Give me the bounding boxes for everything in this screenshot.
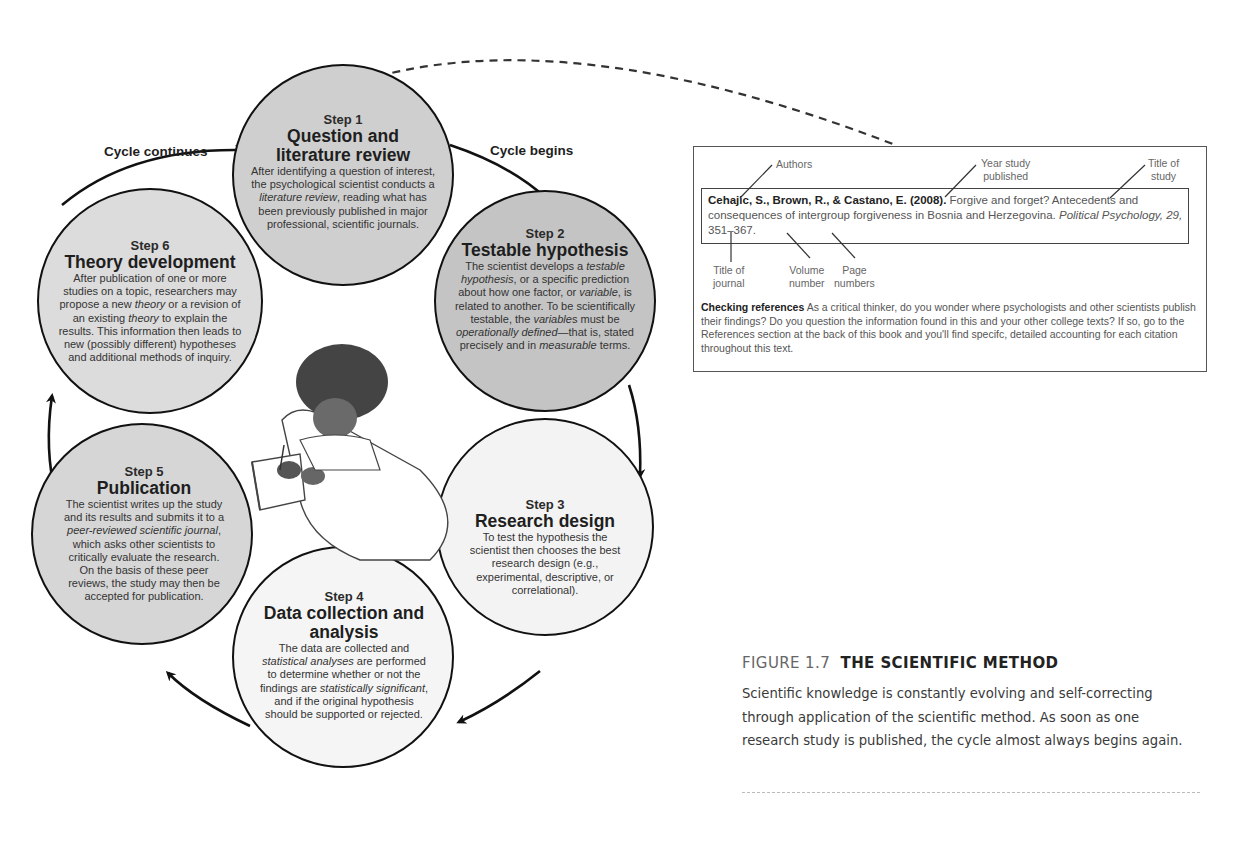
citation-volume: 29, <box>1166 209 1182 221</box>
figure-title: FIGURE 1.7 THE SCIENTIFIC METHOD <box>742 654 1058 672</box>
annotation-pages: Page numbers <box>834 264 875 289</box>
annotation-title-of-journal: Title of journal <box>713 264 745 289</box>
figure-number: FIGURE 1.7 <box>742 654 830 672</box>
citation-authors-year: Cehajic, S., Brown, R., & Castano, E. (2… <box>708 194 946 206</box>
annotation-year: Year study published <box>981 157 1030 182</box>
checking-references-heading: Checking references <box>701 301 804 313</box>
checking-references-note: Checking references As a critical thinke… <box>701 301 1206 355</box>
citation-journal: Political Psychology, <box>1059 209 1163 221</box>
figure-name: THE SCIENTIFIC METHOD <box>841 654 1059 672</box>
annotation-authors: Authors <box>776 158 812 171</box>
figure-caption: Scientific knowledge is constantly evolv… <box>742 682 1197 753</box>
annotation-volume: Volume number <box>789 264 825 289</box>
citation-text: Cehajic, S., Brown, R., & Castano, E. (2… <box>708 193 1186 238</box>
citation-pages: 351–367. <box>708 224 756 236</box>
annotation-title-of-study: Title of study <box>1148 157 1179 182</box>
caption-divider <box>742 792 1200 793</box>
